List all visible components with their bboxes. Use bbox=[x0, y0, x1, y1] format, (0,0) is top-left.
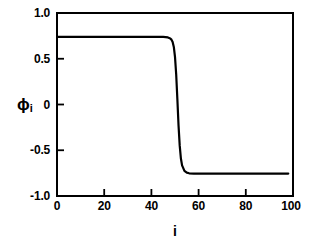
x-tick-label-3: 40 bbox=[145, 200, 158, 212]
x-tick-label-2: 20 bbox=[98, 200, 111, 212]
y-axis-label-subscript: i bbox=[30, 102, 33, 114]
y-axis-label: ϕi bbox=[17, 96, 33, 113]
y-tick-label-5: -1.0 bbox=[6, 190, 50, 202]
x-axis-label: i bbox=[173, 224, 177, 238]
plot-frame bbox=[57, 13, 293, 196]
y-tick-label-1: 1.0 bbox=[6, 7, 50, 19]
chart-figure: 1.0 0.5 0 -0.5 -1.0 0 20 40 60 80 100 ϕi… bbox=[0, 0, 314, 248]
x-tick-label-1: 0 bbox=[54, 200, 60, 212]
x-tick-label-4: 60 bbox=[192, 200, 205, 212]
y-tick-label-2: 0.5 bbox=[6, 53, 50, 65]
x-tick-label-5: 80 bbox=[239, 200, 252, 212]
x-tick-label-6: 100 bbox=[281, 200, 300, 212]
y-axis-label-symbol: ϕ bbox=[17, 95, 30, 114]
y-tick-label-4: -0.5 bbox=[6, 144, 50, 156]
